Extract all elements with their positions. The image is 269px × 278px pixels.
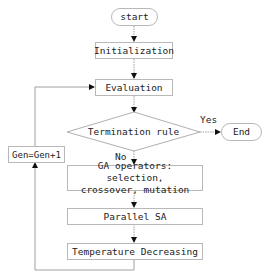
evaluation-node: Evaluation <box>95 79 173 96</box>
ga-operators-line1: GA operators: selection, <box>68 160 202 184</box>
yes-label: Yes <box>200 114 217 125</box>
flowchart-canvas: start Initialization Evaluation Terminat… <box>0 0 269 278</box>
gen-increment-node: Gen=Gen+1 <box>8 146 65 163</box>
end-node: End <box>221 123 262 141</box>
start-node: start <box>111 8 158 26</box>
parallel-sa-node: Parallel SA <box>67 208 203 225</box>
initialization-node: Initialization <box>95 42 173 59</box>
temperature-decreasing-node: Temperature Decreasing <box>67 243 203 260</box>
ga-operators-node: GA operators: selection, crossover, muta… <box>67 165 203 191</box>
ga-operators-line2: crossover, mutation <box>81 184 190 196</box>
termination-rule-decision: Termination rule <box>67 126 200 137</box>
